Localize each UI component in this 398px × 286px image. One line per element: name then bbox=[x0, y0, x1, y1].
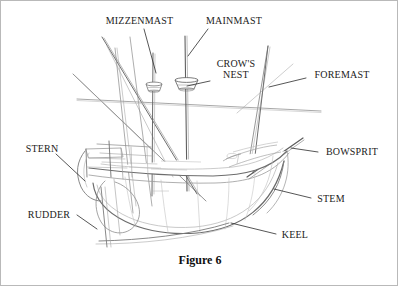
label-layer: MIZZENMASTMAINMASTCROW'SNESTFOREMASTBOWS… bbox=[1, 1, 398, 286]
label-crows-nest-line-2: NEST bbox=[211, 69, 261, 80]
label-crows-nest-line-1: CROW'S bbox=[211, 58, 261, 69]
figure-container: MIZZENMASTMAINMASTCROW'SNESTFOREMASTBOWS… bbox=[0, 0, 398, 286]
label-foremast: FOREMAST bbox=[308, 69, 376, 80]
label-mizzenmast: MIZZENMAST bbox=[102, 15, 177, 26]
figure-caption: Figure 6 bbox=[1, 253, 398, 268]
label-keel: KEEL bbox=[278, 229, 312, 240]
label-stem: STEM bbox=[313, 193, 349, 204]
label-bowsprit: BOWSPRIT bbox=[320, 146, 384, 157]
label-mainmast: MAINMAST bbox=[201, 15, 267, 26]
label-rudder: RUDDER bbox=[23, 209, 75, 220]
label-stern: STERN bbox=[21, 143, 63, 154]
